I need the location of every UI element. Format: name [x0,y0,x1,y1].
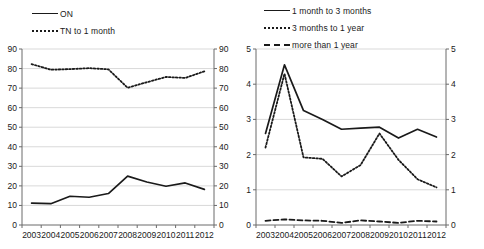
y-tick-label-left: 10 [8,200,18,210]
x-tick-label: 2010 [389,230,408,240]
x-tick-label: 2005 [294,230,313,240]
left-chart-plot: 0010102020303040405050606070708080909020… [0,0,242,249]
y-tick-label-right: 1 [451,185,456,195]
right-chart-svg: 0011223344552003200420052006200720082009… [242,0,484,249]
x-tick-label: 2012 [427,230,446,240]
y-tick-label-right: 20 [219,181,229,191]
y-tick-label-right: 40 [219,142,229,152]
y-tick-label-left: 90 [8,44,18,54]
y-tick-label-left: 0 [246,220,251,230]
right-chart-panel: 1 month to 3 months 3 months to 1 year m… [242,0,484,249]
x-tick-label: 2011 [176,230,195,240]
x-tick-label: 2006 [313,230,332,240]
x-tick-label: 2004 [41,230,60,240]
y-tick-label-left: 4 [246,79,251,89]
y-tick-label-left: 30 [8,161,18,171]
y-tick-label-right: 0 [451,220,456,230]
x-tick-label: 2010 [157,230,176,240]
y-tick-label-left: 2 [246,150,251,160]
x-tick-label: 2003 [256,230,275,240]
left-chart-panel: ON TN to 1 month 00101020203030404050506… [0,0,242,249]
right-chart-plot: 0011223344552003200420052006200720082009… [242,0,484,249]
y-tick-label-left: 70 [8,83,18,93]
y-tick-label-right: 2 [451,150,456,160]
y-tick-label-left: 60 [8,103,18,113]
x-tick-label: 2007 [332,230,351,240]
y-tick-label-right: 30 [219,161,229,171]
series-line-more-than-1-year [266,219,437,223]
y-tick-label-right: 80 [219,64,229,74]
figure-two-line-charts: ON TN to 1 month 00101020203030404050506… [0,0,484,249]
x-tick-label: 2008 [118,230,137,240]
y-tick-label-left: 50 [8,122,18,132]
x-tick-label: 2007 [99,230,118,240]
y-tick-label-right: 5 [451,44,456,54]
y-tick-label-right: 0 [219,220,224,230]
y-tick-label-right: 60 [219,103,229,113]
x-tick-label: 2008 [351,230,370,240]
x-tick-label: 2011 [408,230,427,240]
x-tick-label: 2005 [61,230,80,240]
y-tick-label-left: 80 [8,64,18,74]
left-chart-svg: 0010102020303040405050606070708080909020… [0,0,242,249]
series-line-on [32,176,205,204]
series-line-tn-to-1-month [32,64,205,88]
y-tick-label-left: 5 [246,44,251,54]
y-tick-label-right: 10 [219,200,229,210]
y-tick-label-left: 1 [246,185,251,195]
y-tick-label-right: 50 [219,122,229,132]
y-tick-label-right: 4 [451,79,456,89]
x-tick-label: 2006 [80,230,99,240]
x-tick-label: 2004 [275,230,294,240]
y-tick-label-left: 3 [246,114,251,124]
x-tick-label: 2009 [370,230,389,240]
y-tick-label-right: 3 [451,114,456,124]
y-tick-label-left: 20 [8,181,18,191]
y-tick-label-right: 90 [219,44,229,54]
x-tick-label: 2012 [195,230,214,240]
series-line-3-months-to-1-year [266,74,437,188]
y-tick-label-left: 40 [8,142,18,152]
y-tick-label-right: 70 [219,83,229,93]
x-tick-label: 2003 [22,230,41,240]
x-tick-label: 2009 [137,230,156,240]
y-tick-label-left: 0 [12,220,17,230]
